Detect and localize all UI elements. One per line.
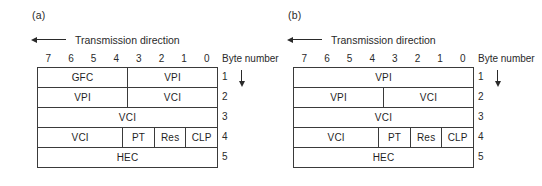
arrow-left-icon bbox=[31, 35, 67, 44]
cell-header-table: VPIVPIVCIVCIVCIPTResCLPHEC bbox=[293, 67, 474, 168]
byte-number: 3 bbox=[478, 107, 492, 127]
bit-number: 2 bbox=[406, 52, 429, 65]
bit-number: 7 bbox=[293, 52, 316, 65]
cell-field: VCI bbox=[384, 88, 473, 107]
bit-number: 5 bbox=[338, 52, 361, 65]
byte-number: 1 bbox=[222, 67, 236, 87]
byte-number: 1 bbox=[478, 67, 492, 87]
bit-number: 6 bbox=[316, 52, 339, 65]
byte-number: 2 bbox=[478, 87, 492, 107]
atm-cell-header-figure: (a)Transmission direction76543210Byte nu… bbox=[0, 0, 542, 186]
panel-label: (a) bbox=[32, 9, 45, 21]
cell-field: PT bbox=[379, 128, 411, 147]
cell-row: VPIVCI bbox=[294, 88, 474, 108]
cell-header-table: GFCVPIVPIVCIVCIVCIPTResCLPHEC bbox=[37, 67, 218, 168]
cell-field: VPI bbox=[128, 68, 217, 87]
transmission-direction-label: Transmission direction bbox=[331, 34, 436, 46]
panel-label: (b) bbox=[288, 9, 301, 21]
cell-field: VPI bbox=[294, 68, 473, 87]
cell-field: VCI bbox=[294, 108, 473, 127]
bit-number: 5 bbox=[82, 52, 105, 65]
bit-number: 2 bbox=[150, 52, 173, 65]
byte-number-column: 12345 bbox=[478, 67, 492, 167]
cell-row: HEC bbox=[38, 148, 218, 168]
cell-field: PT bbox=[123, 128, 155, 147]
cell-row: HEC bbox=[294, 148, 474, 168]
cell-row: VPIVCI bbox=[38, 88, 218, 108]
cell-row: GFCVPI bbox=[38, 68, 218, 88]
cell-row: VCIPTResCLP bbox=[38, 128, 218, 148]
bit-number-ruler: 76543210 bbox=[293, 52, 474, 65]
cell-field: VCI bbox=[294, 128, 379, 147]
cell-field: CLP bbox=[186, 128, 217, 147]
byte-number: 4 bbox=[222, 127, 236, 147]
byte-number-column: 12345 bbox=[222, 67, 236, 167]
bit-number: 0 bbox=[451, 52, 474, 65]
cell-field: VCI bbox=[38, 128, 123, 147]
cell-row: VCIPTResCLP bbox=[294, 128, 474, 148]
byte-number: 5 bbox=[478, 147, 492, 167]
transmission-direction-label: Transmission direction bbox=[75, 34, 180, 46]
bit-number: 4 bbox=[361, 52, 384, 65]
byte-number-header: Byte number bbox=[478, 52, 535, 65]
cell-row: VCI bbox=[294, 108, 474, 128]
cell-field: HEC bbox=[38, 148, 217, 167]
bit-number: 3 bbox=[384, 52, 407, 65]
diagram-panel-b: (b)Transmission direction76543210Byte nu… bbox=[262, 0, 524, 186]
cell-field: GFC bbox=[38, 68, 128, 87]
cell-field: HEC bbox=[294, 148, 473, 167]
bit-number: 3 bbox=[128, 52, 151, 65]
bit-number: 0 bbox=[195, 52, 218, 65]
cell-field: Res bbox=[155, 128, 187, 147]
cell-field: CLP bbox=[442, 128, 473, 147]
cell-field: VCI bbox=[128, 88, 217, 107]
byte-number: 2 bbox=[222, 87, 236, 107]
byte-number: 4 bbox=[478, 127, 492, 147]
transmission-direction: Transmission direction bbox=[287, 33, 436, 46]
bit-number-ruler: 76543210 bbox=[37, 52, 218, 65]
arrow-down-icon bbox=[237, 70, 246, 87]
cell-field: VCI bbox=[38, 108, 217, 127]
cell-row: VPI bbox=[294, 68, 474, 88]
cell-field: VPI bbox=[294, 88, 384, 107]
byte-number: 3 bbox=[222, 107, 236, 127]
bit-number: 7 bbox=[37, 52, 60, 65]
cell-row: VCI bbox=[38, 108, 218, 128]
arrow-left-icon bbox=[287, 35, 323, 44]
cell-field: VPI bbox=[38, 88, 128, 107]
byte-number: 5 bbox=[222, 147, 236, 167]
bit-number: 4 bbox=[105, 52, 128, 65]
bit-number: 1 bbox=[173, 52, 196, 65]
transmission-direction: Transmission direction bbox=[31, 33, 180, 46]
diagram-panel-a: (a)Transmission direction76543210Byte nu… bbox=[6, 0, 268, 186]
arrow-down-icon bbox=[493, 70, 502, 87]
bit-number: 1 bbox=[429, 52, 452, 65]
bit-number: 6 bbox=[60, 52, 83, 65]
cell-field: Res bbox=[411, 128, 443, 147]
